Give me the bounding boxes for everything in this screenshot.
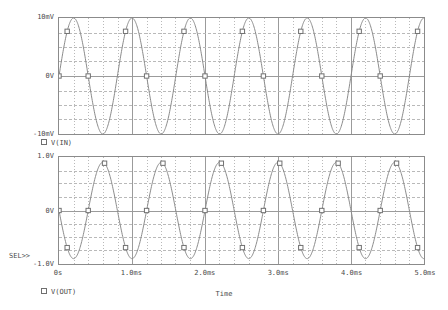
x-axis-tick-4: 4.0ms — [327, 269, 377, 277]
y-axis-label-vout-mid: 0V — [8, 207, 54, 215]
plot-area-vin[interactable] — [58, 17, 425, 135]
x-axis-tick-2: 2.0ms — [180, 269, 230, 277]
x-axis-tick-5: 5.0ms — [400, 269, 448, 277]
plot-area-vout[interactable] — [58, 156, 425, 265]
x-axis-title: Time — [0, 290, 448, 298]
selected-plot-indicator[interactable]: SEL>> — [9, 252, 30, 260]
legend-label-vin: V(IN) — [51, 139, 72, 147]
probe-plot-window: 10mV 0V -10mV V(IN) 1.0V 0V SEL>> -1.0V … — [0, 0, 448, 310]
y-axis-label-vin-max: 10mV — [8, 13, 54, 21]
square-marker-icon — [41, 139, 47, 145]
x-axis-tick-0: 0s — [33, 269, 83, 277]
waveform-canvas-vout — [59, 157, 424, 264]
y-axis-label-vin-min: -10mV — [8, 130, 54, 138]
y-axis-label-vin-mid: 0V — [8, 72, 54, 80]
x-axis-tick-1: 1.0ms — [106, 269, 156, 277]
waveform-canvas-vin — [59, 18, 424, 134]
legend-vin[interactable]: V(IN) — [41, 139, 72, 147]
y-axis-label-vout-min: -1.0V — [8, 260, 54, 268]
y-axis-label-vout-max: 1.0V — [8, 152, 54, 160]
x-axis-tick-3: 3.0ms — [253, 269, 303, 277]
